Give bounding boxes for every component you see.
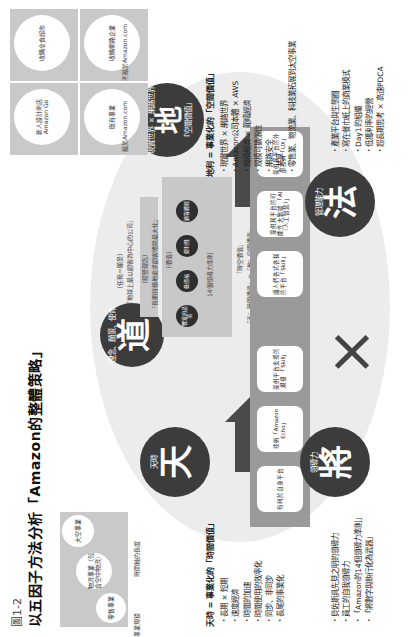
fa-char: 法 bbox=[324, 167, 358, 237]
tian-item: 同步、非同步 bbox=[264, 487, 275, 617]
jiang-flower-2: 技術「Amazon Echo」 bbox=[257, 406, 303, 452]
node-low-price: 低價格 bbox=[176, 270, 198, 292]
jiang-item: 員工的自我領導力 bbox=[341, 487, 352, 617]
pyramid-top-label: 〔任務＝願景〕 bbox=[115, 250, 124, 292]
figure-label: 圖1-2 bbox=[8, 598, 24, 627]
space-circle-amazongo: 新人設計商店 Amazon Go bbox=[14, 89, 70, 145]
node-selection: 豐富的品項 bbox=[176, 305, 198, 327]
pyramid-quote1: 「時空價值」 bbox=[235, 241, 244, 277]
di-item: 共享 bbox=[275, 7, 286, 167]
factor-fa: 管理能力 法 bbox=[305, 167, 375, 237]
jiang-item: 「將數字與執行化為武器」 bbox=[364, 487, 375, 617]
figure-title: 以五因子方法分析「Amazon的整體策略」 bbox=[24, 344, 44, 627]
fa-flower-1: 讓人們各式各樣的平台「Skill」 bbox=[257, 251, 303, 297]
tian-item: 長尾的事業化 bbox=[275, 487, 286, 617]
time-circle-logistics: 物流事業（包含空中物流） bbox=[76, 553, 112, 589]
diagram-canvas: 圖1-2 以五因子方法分析「Amazon的整體策略」 零售事業 物流事業（包含空… bbox=[0, 0, 414, 637]
tian-item: 速度經濟 bbox=[230, 487, 241, 617]
pyramid-base-label: 〔價值〕 bbox=[164, 248, 173, 272]
pyramid-base-text: 14個領導力準則 bbox=[205, 253, 214, 297]
jiang-list: 貝佐斯具先見之明的領導力 員工的自我領導力 「Amazon的14個領導力準則」 … bbox=[330, 487, 375, 627]
jiang-flower-3: 提供平台支援的 規模 「Skill」 bbox=[257, 346, 303, 392]
fa-item: 產業平台與生態圈 bbox=[330, 7, 341, 147]
di-item: 零售業、物流業、科技業拓展到太空事業 bbox=[287, 7, 298, 167]
node-convenience: 便利性 bbox=[176, 235, 198, 257]
tian-char: 天 bbox=[159, 427, 193, 497]
fa-item: Day1的組織 bbox=[353, 7, 364, 147]
pyramid-mid-text: 「長期持續地追求顧客體驗最大化」 bbox=[150, 216, 159, 312]
di-list-heading: 地利 = 事業化的「空間價值」 bbox=[205, 7, 217, 177]
jiang-item: 貝佐斯具先見之明的領導力 bbox=[330, 487, 341, 617]
fa-list: 產業平台與生態圈 寫在餐巾紙上的商業模式 Day1的組織 低獲利率的經營 超長期… bbox=[330, 7, 386, 157]
space-label-right: 不屬於Amazon.com bbox=[120, 24, 129, 81]
di-item: 網路安全 bbox=[264, 7, 275, 167]
tian-item: 長期 × 短期 bbox=[219, 487, 230, 617]
pyramid-mid-label: 〔經營理念〕 bbox=[140, 251, 149, 287]
time-circle-space: 大空事業 bbox=[62, 515, 94, 547]
time-y-label: 事業規模 bbox=[132, 613, 141, 637]
time-x-label: 時間軸的長度 bbox=[132, 541, 141, 577]
tian-item: 時間的加速 bbox=[242, 487, 253, 617]
tian-list: 天時 = 事業化的「時間價值」 長期 × 短期 速度經濟 時間的加速 時間使用的… bbox=[205, 487, 287, 627]
node-experience: 顧客體驗 bbox=[176, 200, 198, 222]
fa-flower-2: 提供其平台的可能性 大數據 「AI（人工智慧）」 bbox=[257, 191, 303, 237]
cross-symbol: × bbox=[320, 327, 380, 377]
di-list: 地利 = 事業化的「空間價值」 現實世界 × 網路世界 Amazon公司本體 ×… bbox=[205, 7, 298, 177]
tian-item: 時間使用的效率化 bbox=[253, 487, 264, 617]
di-char: 地 bbox=[156, 83, 184, 157]
pyramid-top-text: 「地球上最以顧客為中心的公司」 bbox=[125, 217, 134, 307]
space-circle-wholefoods: 收購全食超市 bbox=[14, 15, 70, 71]
tian-list-heading: 天時 = 事業化的「時間價值」 bbox=[205, 487, 217, 627]
di-item: 規模經濟 × 範疇經濟 bbox=[242, 7, 253, 167]
fa-item: 超長期思考 × 高速PDCA bbox=[375, 7, 386, 147]
fa-item: 寫在餐巾紙上的商業模式 bbox=[341, 7, 352, 147]
space-circle-existing: 既有事業 bbox=[84, 89, 140, 145]
factor-tian: 天時 天 bbox=[140, 427, 210, 497]
fa-item: 低獲利率的經營 bbox=[364, 7, 375, 147]
jiang-item: 「Amazon的14個領導力準則」 bbox=[353, 487, 364, 617]
space-circle-web: 收購網路企業 bbox=[84, 15, 140, 71]
di-item: 規模可擴張性 bbox=[253, 7, 264, 167]
di-item: 現實世界 × 網路世界 bbox=[219, 7, 230, 167]
time-circle-retail: 零售事業 bbox=[96, 593, 126, 623]
space-label-left: 屬於Amazon.com bbox=[120, 101, 129, 152]
di-item: Amazon公司本體 × AWS bbox=[230, 7, 241, 167]
